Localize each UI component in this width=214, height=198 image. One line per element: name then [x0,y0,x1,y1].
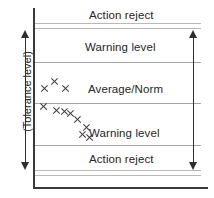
zone-label-lower-action-reject: Action reject [89,154,154,166]
scatter-marker-x [50,77,59,86]
band-line-average-norm [33,103,201,104]
tolerance-range-arrow-left [20,30,32,170]
scatter-marker-x [61,84,70,93]
tolerance-level-chart: Action reject Warning level Average/Norm… [0,0,214,198]
scatter-marker-x [40,84,49,93]
band-line-lower-warning [33,145,201,146]
scatter-marker-x [39,102,48,111]
zone-label-lower-warning: Warning level [89,128,160,140]
band-line-upper-warning [33,62,201,63]
scatter-marker-x [73,115,82,124]
tolerance-range-arrow-right [188,30,200,170]
zone-label-average-norm: Average/Norm [88,84,163,96]
scatter-marker-x [85,133,94,142]
arrow-head-down-icon [21,162,29,170]
band-line-upper-action-reject-a [33,23,201,24]
x-axis-line [33,187,208,189]
arrow-head-down-icon [189,162,197,170]
zone-label-upper-action-reject: Action reject [89,10,154,22]
band-line-lower-action-reject-b [33,175,201,176]
zone-label-upper-warning: Warning level [85,42,156,54]
y-axis-line [33,8,35,189]
band-line-lower-action-reject-a [33,170,201,171]
arrow-shaft [193,36,194,164]
band-line-upper-action-reject-b [33,28,201,29]
arrow-shaft [25,36,26,164]
